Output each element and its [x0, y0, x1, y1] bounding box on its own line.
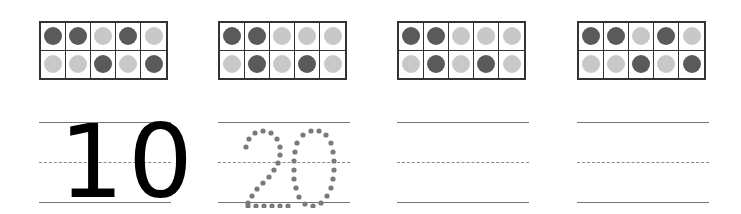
handwriting-lines-3[interactable]: [397, 0, 529, 214]
handwriting-lines-4[interactable]: [577, 0, 709, 214]
exercise-block-2: 20: [218, 0, 358, 214]
dotted-digits-graphic: [232, 118, 352, 208]
exercise-block-3: [397, 0, 537, 214]
baseline: [577, 202, 709, 203]
exercise-block-4: [577, 0, 717, 214]
top-line: [397, 122, 529, 123]
exercise-block-1: 10: [39, 0, 179, 214]
mid-dashed-line: [577, 162, 709, 163]
top-line: [577, 122, 709, 123]
number-written: 10: [59, 118, 197, 206]
mid-dashed-line: [397, 162, 529, 163]
baseline: [397, 202, 529, 203]
